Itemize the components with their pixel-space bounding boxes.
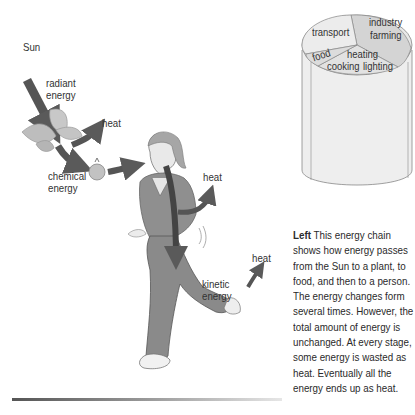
pie-label-heating: heating xyxy=(347,49,378,60)
pie-label-farming: farming xyxy=(370,30,402,41)
heat-label-body: heat xyxy=(203,171,222,183)
kinetic-line-1: kinetic xyxy=(202,278,232,290)
pie-label-transport: transport xyxy=(312,27,349,38)
radiant-energy-label: radiant energy xyxy=(46,77,76,101)
pie-label-cooking: cooking xyxy=(327,61,360,72)
chemical-line-2: energy xyxy=(48,182,86,194)
chemical-energy-arrow xyxy=(58,146,80,166)
heat-label-kinetic: heat xyxy=(252,252,271,264)
caption-text: This energy chain shows how energy passe… xyxy=(293,229,413,394)
caption-lead: Left xyxy=(293,229,311,241)
motion-lines xyxy=(199,226,206,248)
pie-label-lighting: lighting xyxy=(363,61,393,72)
heat-arrow-kinetic xyxy=(248,268,260,287)
kinetic-line-2: energy xyxy=(202,290,232,302)
figure-caption: Left This energy chain shows how energy … xyxy=(293,228,415,396)
page-divider xyxy=(12,398,282,401)
runner-figure xyxy=(128,132,240,369)
radiant-line-2: energy xyxy=(46,89,76,101)
heat-label-plant: heat xyxy=(102,117,121,129)
chemical-line-1: chemical xyxy=(48,170,86,182)
radiant-line-1: radiant xyxy=(46,77,76,89)
chemical-energy-label: chemical energy xyxy=(48,170,86,194)
pie-label-industry: industry xyxy=(369,17,402,28)
fruit-icon xyxy=(89,158,105,180)
kinetic-energy-label: kinetic energy xyxy=(202,278,232,302)
food-to-person-arrow xyxy=(108,166,134,172)
sun-label: Sun xyxy=(23,41,40,53)
